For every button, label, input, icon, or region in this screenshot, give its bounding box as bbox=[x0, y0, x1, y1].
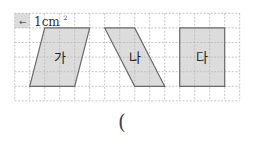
unit-text: 1cm bbox=[34, 15, 60, 29]
unit-legend: ← 1cm 2 bbox=[19, 14, 68, 29]
shape-label: 다 bbox=[196, 50, 208, 65]
answer-open-paren: ( bbox=[118, 112, 126, 132]
unit-label: 1cm 2 bbox=[34, 14, 68, 29]
arrow-left-icon: ← bbox=[19, 17, 27, 27]
grid-figure: 가나다 ← 1cm 2 bbox=[0, 0, 267, 144]
shape-label: 나 bbox=[129, 50, 141, 65]
shape-label: 가 bbox=[54, 50, 66, 65]
unit-superscript: 2 bbox=[64, 14, 68, 21]
